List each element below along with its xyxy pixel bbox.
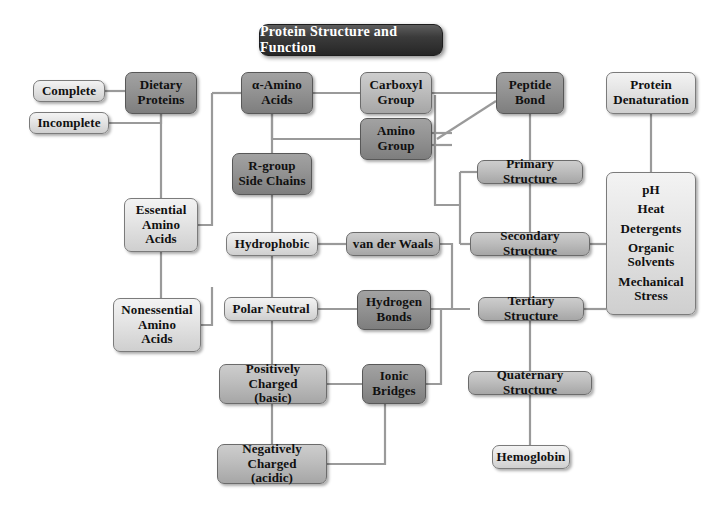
- node-label: CarboxylGroup: [370, 78, 423, 107]
- node-tertiary: Tertiary Structure: [478, 297, 584, 321]
- node-label: NonessentialAminoAcids: [121, 303, 192, 347]
- node-label: Secondary Structure: [475, 229, 585, 258]
- node-label: Hydrophobic: [235, 237, 310, 252]
- node-nonessential: NonessentialAminoAcids: [113, 298, 201, 352]
- node-label: Negatively Charged(acidic): [222, 442, 322, 486]
- page-title: Protein Structure and Function: [259, 24, 443, 56]
- protein-concept-map: Protein Structure and Function CompleteI…: [0, 0, 723, 508]
- node-label: EssentialAminoAcids: [136, 203, 187, 247]
- node-positive: Positively Charged(basic): [219, 364, 327, 404]
- node-hydrogenbonds: HydrogenBonds: [357, 290, 431, 330]
- node-incomplete: Incomplete: [29, 112, 109, 134]
- node-label: Positively Charged(basic): [224, 362, 322, 406]
- node-complete: Complete: [33, 80, 105, 102]
- node-essential: EssentialAminoAcids: [124, 198, 198, 252]
- node-vanderwaals: van der Waals: [346, 232, 440, 256]
- page-title-text: Protein Structure and Function: [260, 24, 442, 56]
- node-label: Polar Neutral: [232, 302, 309, 317]
- node-secondary: Secondary Structure: [470, 232, 590, 256]
- edge-carboxyl-down: [435, 95, 460, 205]
- node-alpha: α-AminoAcids: [241, 72, 313, 114]
- node-label: Hemoglobin: [497, 450, 566, 465]
- node-denaturation: ProteinDenaturation: [606, 72, 696, 114]
- node-quaternary: Quaternary Structure: [468, 371, 592, 395]
- agent-item: Heat: [637, 202, 664, 217]
- denaturation-agents-box: pHHeatDetergentsOrganic SolventsMechanic…: [606, 172, 696, 315]
- node-hydrophobic: Hydrophobic: [226, 232, 318, 256]
- node-label: α-AminoAcids: [252, 78, 302, 107]
- node-label: Incomplete: [37, 116, 100, 131]
- node-label: DietaryProteins: [138, 78, 185, 107]
- node-primary: Primary Structure: [477, 160, 583, 184]
- node-dietary: DietaryProteins: [125, 72, 197, 114]
- node-carboxyl: CarboxylGroup: [360, 72, 432, 114]
- node-negative: Negatively Charged(acidic): [217, 444, 327, 484]
- agent-item: pH: [642, 183, 660, 198]
- node-polarneutral: Polar Neutral: [224, 297, 318, 321]
- node-label: Primary Structure: [482, 157, 578, 186]
- edge-essential-alpha: [198, 93, 212, 225]
- node-rgroup: R-groupSide Chains: [232, 153, 312, 195]
- edge-incomplete-dietary: [109, 114, 161, 123]
- node-label: Quaternary Structure: [473, 368, 587, 397]
- node-label: ProteinDenaturation: [613, 78, 689, 107]
- node-label: Tertiary Structure: [483, 294, 579, 323]
- edge-negative-ionic: [327, 404, 385, 464]
- node-label: PeptideBond: [509, 78, 552, 107]
- node-label: van der Waals: [353, 237, 433, 252]
- node-amino: AminoGroup: [360, 118, 432, 160]
- node-label: HydrogenBonds: [366, 295, 422, 324]
- node-label: AminoGroup: [377, 124, 415, 153]
- agent-item: Organic Solvents: [611, 241, 691, 270]
- node-peptide: PeptideBond: [496, 72, 564, 114]
- node-hemoglobin: Hemoglobin: [492, 445, 570, 469]
- agent-item: Detergents: [621, 222, 682, 237]
- node-label: IonicBridges: [372, 369, 415, 398]
- edge-amino-peptide-diagonal: [437, 101, 496, 139]
- edge-vdw-secondary: [440, 244, 452, 309]
- node-label: R-groupSide Chains: [238, 159, 305, 188]
- node-label: Complete: [42, 84, 96, 99]
- edge-nonessential-alpha: [201, 287, 212, 325]
- agent-item: Mechanical Stress: [611, 275, 691, 304]
- node-ionicbridges: IonicBridges: [362, 364, 426, 404]
- edge-alpha-amino: [272, 114, 360, 139]
